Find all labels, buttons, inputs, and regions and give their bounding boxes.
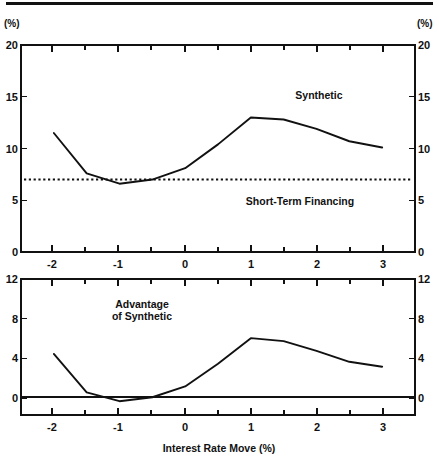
top-right-unit-label: (%) bbox=[417, 18, 433, 29]
bottom-ytick-left-0: 0 bbox=[12, 392, 18, 404]
top-panel-top-ticks bbox=[52, 45, 383, 52]
bottom-ytick-left-8: 8 bbox=[12, 313, 18, 325]
top-ytick-left-5: 5 bbox=[12, 194, 18, 206]
bottom-xtick-2: 2 bbox=[314, 421, 320, 433]
top-ytick-right-5: 5 bbox=[418, 194, 424, 206]
top-xtick-2: 2 bbox=[314, 258, 320, 270]
top-panel-frame bbox=[21, 45, 415, 252]
bottom-xtick-1: 1 bbox=[248, 421, 254, 433]
top-panel-bottom-ticks bbox=[52, 245, 383, 252]
dual-panel-line-chart: (%) (%) bbox=[0, 0, 439, 461]
bottom-panel-bottom-ticks bbox=[52, 408, 383, 415]
bottom-ytick-right-4: 4 bbox=[418, 352, 425, 364]
top-ytick-left-0: 0 bbox=[12, 246, 18, 258]
bottom-xtick-0: 0 bbox=[182, 421, 188, 433]
bottom-ytick-right-12: 12 bbox=[418, 273, 430, 285]
top-ytick-right-15: 15 bbox=[418, 91, 430, 103]
top-xtick-3: 3 bbox=[380, 258, 386, 270]
top-xtick-0: 0 bbox=[182, 258, 188, 270]
top-panel-left-ticks bbox=[21, 45, 27, 252]
bottom-panel-top-ticks bbox=[52, 279, 383, 286]
top-ytick-left-20: 20 bbox=[6, 39, 18, 51]
bottom-xtick--2: -2 bbox=[47, 421, 57, 433]
bottom-ytick-left-4: 4 bbox=[12, 352, 19, 364]
bottom-ytick-right-8: 8 bbox=[418, 313, 424, 325]
bottom-panel-left-ticks bbox=[21, 279, 27, 398]
synthetic-label: Synthetic bbox=[295, 89, 342, 101]
top-ytick-right-20: 20 bbox=[418, 39, 430, 51]
top-xtick--1: -1 bbox=[113, 258, 123, 270]
advantage-label-line1: Advantage bbox=[115, 298, 169, 310]
x-axis-title: Interest Rate Move (%) bbox=[163, 442, 276, 454]
bottom-panel: 12 8 4 0 12 8 4 0 -2 -1 0 1 2 3 Advantag… bbox=[6, 273, 431, 454]
short-term-financing-label: Short-Term Financing bbox=[246, 195, 354, 207]
top-ytick-left-10: 10 bbox=[6, 143, 18, 155]
advantage-curve bbox=[54, 338, 382, 401]
figure-container: (%) (%) bbox=[0, 0, 439, 461]
top-ytick-right-0: 0 bbox=[418, 246, 424, 258]
bottom-panel-frame bbox=[21, 279, 415, 415]
top-xtick-1: 1 bbox=[248, 258, 254, 270]
bottom-panel-right-ticks bbox=[409, 279, 415, 398]
top-left-unit-label: (%) bbox=[4, 18, 20, 29]
top-ytick-right-10: 10 bbox=[418, 143, 430, 155]
top-panel: (%) (%) bbox=[4, 18, 433, 270]
bottom-ytick-left-12: 12 bbox=[6, 273, 18, 285]
bottom-xtick-3: 3 bbox=[380, 421, 386, 433]
top-xtick--2: -2 bbox=[47, 258, 57, 270]
advantage-label-line2: of Synthetic bbox=[112, 310, 172, 322]
bottom-xtick--1: -1 bbox=[113, 421, 123, 433]
bottom-ytick-right-0: 0 bbox=[418, 392, 424, 404]
top-panel-right-ticks bbox=[409, 45, 415, 252]
synthetic-curve bbox=[54, 117, 382, 183]
top-ytick-left-15: 15 bbox=[6, 91, 18, 103]
